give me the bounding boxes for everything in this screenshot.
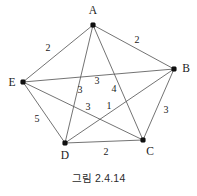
graph-edge-ae: [23, 25, 93, 82]
edge-weight-ed: 5: [35, 113, 40, 124]
graph-edge-dc: [65, 140, 143, 143]
graph-node-a[interactable]: [91, 23, 96, 28]
graph-node-d[interactable]: [63, 141, 68, 146]
edge-weight-ec: 1: [107, 100, 112, 111]
graph-node-label-d: D: [61, 149, 69, 161]
edge-weights-group: 2234315332: [35, 34, 169, 157]
graph-edge-ec: [23, 82, 143, 140]
edge-weight-ac: 4: [112, 83, 117, 94]
graph-node-label-b: B: [182, 62, 190, 74]
graph-node-label-a: A: [89, 4, 98, 16]
edge-weight-ad: 3: [78, 84, 83, 95]
graph-node-e[interactable]: [21, 80, 26, 85]
graph-edge-ab: [93, 25, 174, 69]
edge-weight-ab: 2: [135, 34, 140, 45]
figure-container: 2234315332 ABCDE 그림 2.4.14: [0, 0, 197, 196]
edge-weight-bd: 3: [86, 101, 91, 112]
graph-node-label-c: C: [146, 145, 154, 157]
graph-node-b[interactable]: [172, 67, 177, 72]
edge-weight-ae: 2: [46, 42, 51, 53]
graph-node-label-e: E: [8, 76, 15, 88]
figure-caption: 그림 2.4.14: [0, 170, 197, 185]
edge-weight-bc: 3: [164, 104, 169, 115]
edge-weight-dc: 2: [104, 146, 109, 157]
graph-node-c[interactable]: [141, 138, 146, 143]
graph-edge-ed: [23, 82, 65, 143]
graph-canvas: 2234315332 ABCDE: [0, 0, 197, 170]
edge-weight-eb: 3: [95, 75, 100, 86]
